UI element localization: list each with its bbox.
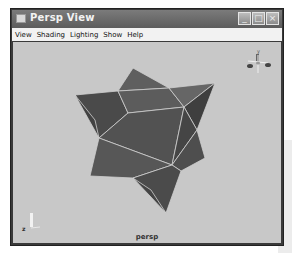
menu-show[interactable]: Show bbox=[103, 31, 122, 39]
minimize-button[interactable]: _ bbox=[238, 12, 251, 25]
camera-label: persp bbox=[13, 233, 281, 241]
menu-help[interactable]: Help bbox=[127, 31, 143, 39]
maximize-button[interactable]: □ bbox=[252, 12, 265, 25]
close-button[interactable]: × bbox=[266, 12, 279, 25]
compass-y-label: y bbox=[257, 48, 260, 55]
window-title: Persp View bbox=[30, 12, 95, 23]
menu-lighting[interactable]: Lighting bbox=[70, 31, 98, 39]
face-top-back bbox=[118, 68, 169, 91]
menu-bar: View Shading Lighting Show Help bbox=[12, 28, 282, 41]
window-app-icon bbox=[16, 14, 26, 23]
close-icon: × bbox=[269, 13, 277, 23]
maximize-icon: □ bbox=[254, 13, 263, 23]
axis-z-label: z bbox=[22, 225, 26, 232]
minimize-icon: _ bbox=[242, 13, 247, 23]
menu-shading[interactable]: Shading bbox=[37, 31, 65, 39]
window-controls: _ □ × bbox=[238, 12, 279, 25]
view-compass-icon[interactable]: y bbox=[243, 47, 273, 77]
stellated-octahedron-model[interactable] bbox=[13, 42, 281, 243]
menu-view[interactable]: View bbox=[15, 31, 32, 39]
persp-view-window: Persp View _ □ × View Shading Lighting S… bbox=[10, 8, 284, 246]
3d-viewport[interactable]: y z persp bbox=[13, 42, 281, 243]
title-bar[interactable]: Persp View _ □ × bbox=[12, 10, 282, 28]
